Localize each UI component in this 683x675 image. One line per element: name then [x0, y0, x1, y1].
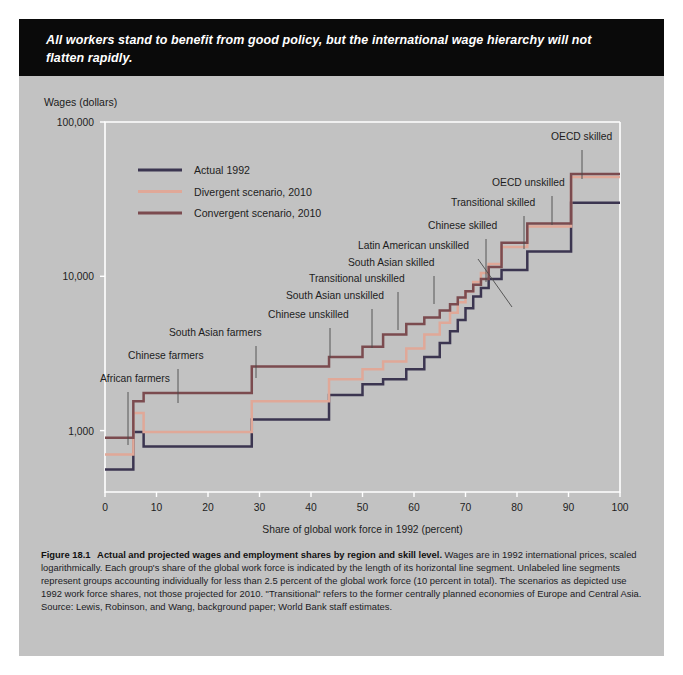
series-line-convergent-scenario-2010	[105, 174, 620, 438]
x-tick-label: 60	[408, 502, 420, 513]
series-group	[105, 174, 620, 469]
legend-label: Actual 1992	[194, 164, 250, 176]
data-label: Chinese farmers	[128, 350, 204, 361]
legend-label: Divergent scenario, 2010	[194, 186, 312, 198]
x-tick-label: 80	[511, 502, 523, 513]
figure-number: Figure 18.1	[41, 549, 91, 560]
data-label: South Asian skilled	[348, 257, 435, 268]
data-label: OECD skilled	[551, 131, 612, 142]
data-label: OECD unskilled	[492, 177, 565, 188]
chart-container: African farmersChinese farmersSouth Asia…	[19, 76, 664, 546]
x-tick-label: 40	[305, 502, 317, 513]
x-tick-label: 90	[563, 502, 575, 513]
x-tick-label: 100	[611, 502, 628, 513]
annotations-group: African farmersChinese farmersSouth Asia…	[100, 131, 612, 445]
x-tick-label: 0	[102, 502, 108, 513]
y-tick-label: 100,000	[57, 117, 94, 128]
data-label: South Asian unskilled	[286, 290, 384, 301]
series-line-divergent-scenario-2010	[105, 177, 620, 454]
data-label: African farmers	[100, 373, 170, 384]
x-axis-title: Share of global work force in 1992 (perc…	[262, 524, 462, 535]
data-label: Chinese skilled	[428, 220, 498, 231]
y-tick-label: 1,000	[68, 426, 94, 437]
figure-caption: Figure 18.1 Actual and projected wages a…	[41, 548, 644, 613]
x-tick-label: 20	[202, 502, 214, 513]
x-tick-label: 30	[254, 502, 266, 513]
banner: All workers stand to benefit from good p…	[19, 19, 664, 76]
figure-title: Actual and projected wages and employmen…	[97, 549, 442, 560]
data-label: Transitional unskilled	[309, 273, 405, 284]
data-label: Chinese unskilled	[268, 309, 349, 320]
data-label: Transitional skilled	[451, 197, 536, 208]
legend-label: Convergent scenario, 2010	[194, 207, 321, 219]
data-label: South Asian farmers	[169, 327, 262, 338]
x-tick-label: 10	[151, 502, 163, 513]
banner-text: All workers stand to benefit from good p…	[46, 31, 631, 67]
x-tick-label: 70	[460, 502, 472, 513]
data-label: Latin American unskilled	[358, 240, 469, 251]
x-tick-label: 50	[357, 502, 369, 513]
y-tick-label: 10,000	[63, 271, 95, 282]
legend-group: Actual 1992Divergent scenario, 2010Conve…	[138, 164, 321, 219]
step-chart: African farmersChinese farmersSouth Asia…	[19, 76, 664, 546]
